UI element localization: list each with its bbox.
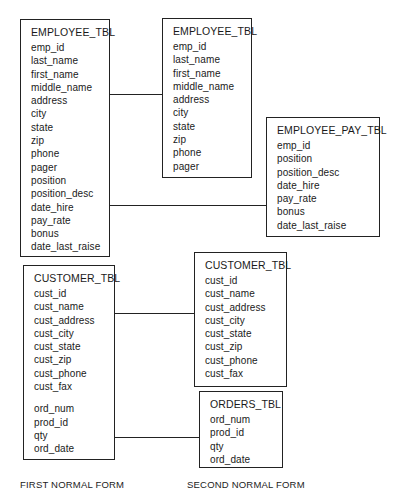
field: zip (31, 134, 109, 147)
field: prod_id (210, 426, 282, 439)
field: date_last_raise (277, 219, 379, 232)
table-orders-2nf: ORDERS_TBL ord_num prod_id qty ord_date (199, 391, 283, 468)
field: cust_address (34, 314, 114, 327)
field: emp_id (277, 139, 379, 152)
field: phone (31, 147, 109, 160)
table-title: ORDERS_TBL (210, 398, 282, 411)
field: bonus (277, 205, 379, 218)
field: first_name (31, 68, 109, 81)
field: pay_rate (31, 214, 109, 227)
field: cust_id (205, 274, 286, 287)
field: position_desc (277, 166, 379, 179)
field: phone (173, 146, 251, 159)
field: zip (173, 133, 251, 146)
field: cust_name (34, 300, 114, 313)
field: ord_num (210, 413, 282, 426)
field: qty (210, 440, 282, 453)
field: qty (34, 429, 114, 442)
field: pay_rate (277, 192, 379, 205)
field: address (31, 94, 109, 107)
field: position (31, 174, 109, 187)
field: ord_date (34, 442, 114, 455)
field: bonus (31, 227, 109, 240)
field: cust_state (34, 340, 114, 353)
field: ord_num (34, 402, 114, 415)
field: state (31, 121, 109, 134)
field: pager (31, 161, 109, 174)
field: date_last_raise (31, 240, 109, 253)
field: date_hire (277, 179, 379, 192)
table-title: EMPLOYEE_TBL (31, 26, 109, 39)
table-employee-pay-2nf: EMPLOYEE_PAY_TBL emp_id position positio… (266, 117, 380, 237)
table-customer-1nf: CUSTOMER_TBL cust_id cust_name cust_addr… (23, 265, 115, 460)
field: cust_phone (205, 354, 286, 367)
table-title: CUSTOMER_TBL (34, 272, 114, 285)
table-employee-2nf: EMPLOYEE_TBL emp_id last_name first_name… (162, 18, 252, 178)
field: cust_city (34, 327, 114, 340)
field: prod_id (34, 416, 114, 429)
field: cust_state (205, 327, 286, 340)
field: position (277, 152, 379, 165)
field: first_name (173, 67, 251, 80)
table-title: EMPLOYEE_TBL (173, 25, 251, 38)
field: cust_id (34, 287, 114, 300)
field: ord_date (210, 453, 282, 466)
field: pager (173, 160, 251, 173)
field: cust_fax (34, 380, 114, 393)
connector-employee-to-employee-pay (110, 205, 266, 206)
field: cust_phone (34, 367, 114, 380)
field: cust_address (205, 301, 286, 314)
field: emp_id (31, 41, 109, 54)
caption-first-normal-form: FIRST NORMAL FORM (20, 479, 124, 490)
field: address (173, 93, 251, 106)
field: date_hire (31, 201, 109, 214)
table-employee-1nf: EMPLOYEE_TBL emp_id last_name first_name… (20, 19, 110, 257)
field: middle_name (173, 80, 251, 93)
field: position_desc (31, 187, 109, 200)
connector-customer-to-customer (115, 313, 194, 314)
field: cust_zip (34, 353, 114, 366)
field: state (173, 120, 251, 133)
field: city (31, 107, 109, 120)
field: cust_city (205, 314, 286, 327)
table-title: EMPLOYEE_PAY_TBL (277, 124, 379, 137)
field: cust_fax (205, 367, 286, 380)
table-title: CUSTOMER_TBL (205, 259, 286, 272)
connector-customer-to-orders (115, 437, 199, 438)
field: last_name (31, 54, 109, 67)
connector-employee-to-employee (110, 94, 162, 95)
field: city (173, 106, 251, 119)
table-customer-2nf: CUSTOMER_TBL cust_id cust_name cust_addr… (194, 252, 287, 387)
field: middle_name (31, 81, 109, 94)
field: last_name (173, 53, 251, 66)
field: cust_name (205, 287, 286, 300)
field-group-gap (34, 393, 114, 402)
field: emp_id (173, 40, 251, 53)
caption-second-normal-form: SECOND NORMAL FORM (187, 479, 305, 490)
field: cust_zip (205, 340, 286, 353)
